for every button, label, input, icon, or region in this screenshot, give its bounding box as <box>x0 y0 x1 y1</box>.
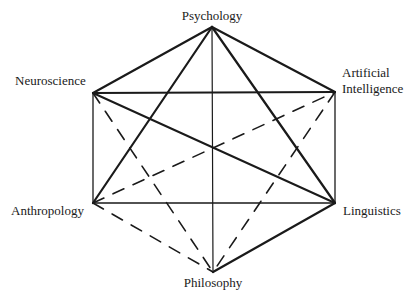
edge-artificial-intelligence-philosophy-dashed <box>213 92 335 272</box>
edges-group <box>93 27 335 272</box>
labels-group: PsychologyNeuroscienceArtificialIntellig… <box>11 8 404 290</box>
node-label-line: Neuroscience <box>15 73 86 88</box>
node-label-line: Linguistics <box>343 203 401 218</box>
edge-psychology-linguistics-solid <box>212 27 335 203</box>
node-label-linguistics: Linguistics <box>343 203 401 218</box>
edge-anthropology-philosophy-dashed <box>93 203 213 272</box>
node-label-line: Philosophy <box>184 275 243 290</box>
node-label-psychology: Psychology <box>182 8 243 23</box>
node-label-anthropology: Anthropology <box>11 203 84 218</box>
edge-linguistics-philosophy-solid <box>213 203 335 272</box>
node-label-line: Anthropology <box>11 203 84 218</box>
discipline-hexagon-diagram: PsychologyNeuroscienceArtificialIntellig… <box>0 0 410 299</box>
edge-psychology-anthropology-solid <box>93 27 212 203</box>
edge-psychology-neuroscience-solid <box>93 27 212 93</box>
edge-psychology-artificial-intelligence-solid <box>212 27 335 92</box>
node-label-neuroscience: Neuroscience <box>15 73 86 88</box>
node-label-line: Artificial <box>342 65 390 80</box>
edge-psychology-philosophy-solid <box>212 27 213 272</box>
node-label-philosophy: Philosophy <box>184 275 243 290</box>
node-label-line: Intelligence <box>342 81 404 96</box>
node-label-artificial-intelligence: ArtificialIntelligence <box>342 65 404 96</box>
edge-neuroscience-artificial-intelligence-solid <box>93 92 335 93</box>
node-label-line: Psychology <box>182 8 243 23</box>
